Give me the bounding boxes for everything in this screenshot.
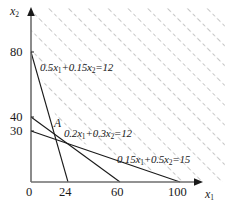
x-axis-title: x1	[205, 188, 214, 200]
x-tick-label-100: 100	[168, 186, 187, 199]
y-tick-label-40: 40	[10, 111, 23, 124]
constraint-label-1-part3: =12	[95, 61, 113, 73]
x-axis-title-sub: 1	[210, 193, 214, 202]
y-tick-label-30: 30	[10, 125, 23, 138]
y-axis-title: x2	[10, 5, 19, 17]
constraint-label-3-sub1: 1	[140, 158, 144, 167]
plot-canvas	[0, 0, 225, 208]
x-tick-label-0: 0	[26, 186, 32, 199]
vertex-label-a: A	[54, 118, 61, 130]
y-axis-title-sub: 2	[15, 10, 19, 19]
constraint-label-1-sub1: 1	[58, 66, 62, 75]
constraint-label-2-part2: +0.3x	[85, 127, 110, 139]
constraint-label-2-sub2: 2	[110, 132, 114, 141]
constraint-label-2-sub1: 1	[82, 132, 86, 141]
constraint-label-2: 0.2x1+0.3x2=12	[64, 128, 132, 139]
linear-programming-figure: x2 x1 80 40 30 0 24 60 100 A 0.5x1+0.15x…	[0, 0, 225, 208]
constraint-label-1: 0.5x1+0.15x2=12	[40, 62, 113, 73]
x-tick-label-60: 60	[111, 186, 124, 199]
constraint-label-1-part2: +0.15x	[61, 61, 91, 73]
constraint-label-1-sub2: 2	[92, 66, 96, 75]
constraint-label-1-part1: 0.5x	[40, 61, 58, 73]
y-tick-label-80: 80	[10, 46, 23, 59]
x-tick-label-24: 24	[59, 186, 72, 199]
constraint-label-3-part1: 0.15x	[117, 153, 140, 165]
constraint-label-3: 0.15x1+0.5x2=15	[117, 154, 190, 165]
constraint-label-3-part3: =15	[172, 153, 190, 165]
constraint-label-2-part1: 0.2x	[64, 127, 82, 139]
constraint-label-3-sub2: 2	[169, 158, 173, 167]
constraint-label-3-part2: +0.5x	[144, 153, 169, 165]
constraint-label-2-part3: =12	[114, 127, 132, 139]
